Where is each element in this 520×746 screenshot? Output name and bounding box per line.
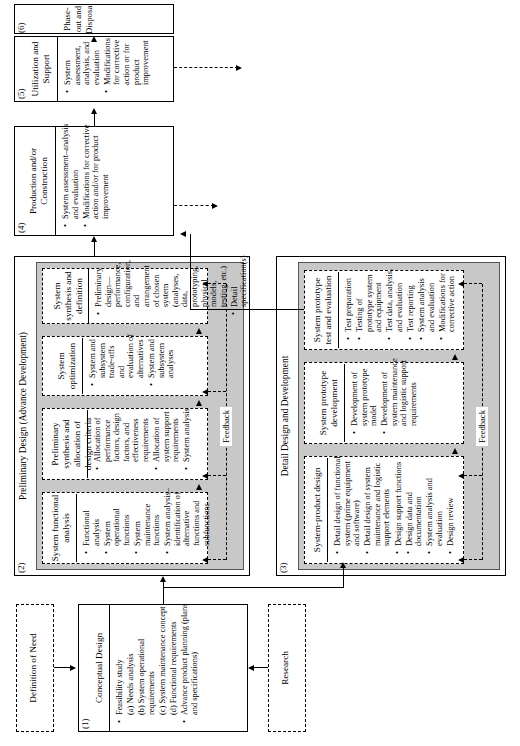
phase-2-feedback-label: Feedback [220,407,232,446]
phase-5-rule [57,36,58,102]
connector-phase3-to-phase4-h [190,234,191,310]
list-item: Design review [446,452,456,546]
arrow-phase2-to-phase3 [340,562,346,568]
arrow-phase3-b2-to-b3 [452,354,458,360]
phase-1-title: Conceptual Design [94,604,105,732]
list-item: Test data, analysis, and evaluation [385,266,404,332]
arrow-phase5-to-phase6 [91,36,97,42]
phase-3-feedback-label: Feedback [476,407,488,446]
phase-4-number: (4) [16,223,26,234]
phase-2-block-3-rule [82,338,83,394]
arrow-phase2-feedback-4 [202,281,208,287]
arrow-phase3-b1-to-b2 [452,448,458,454]
phase-5-title: Utilization and Support [30,36,52,102]
arrow-phase4-to-phase5 [91,108,97,114]
phase-1-item-list: Feasibility study (a) Needs analysis (b)… [115,603,201,724]
phase-2-block-2-items: Allocation of performance factors, desig… [93,404,193,471]
list-item: (b) System operational requirements [137,603,156,715]
phase-2-block-3-items: System and subsystem trade-offs and eval… [88,332,177,387]
list-item: System operational functions [103,488,132,546]
list-item: Feasibility study [115,603,125,715]
connector-phase3-to-phase4 [190,309,304,310]
feedback-phase4-to-phase3 [174,205,214,206]
connector-phase4-to-phase5 [94,112,95,126]
diagram-rotation-wrapper: Definition of Need (1) Conceptual Design… [0,0,520,746]
phase-3-block-2-items: Development of system prototype model De… [350,358,420,435]
arrow-need-to-conceptual [70,665,76,671]
phase-2-block-1-title: System functional analysis [50,494,72,562]
phase-5-items: System assessment, analysis, and evaluat… [63,33,152,94]
list-item: System analysis [182,404,192,462]
arrow-phase2-feedback-3 [202,389,208,395]
list-item: System analysis–identification of altern… [163,488,211,546]
phase-2-block-1-items: Functional analysis System operational f… [82,488,213,555]
list-item: System analysis and evaluation [417,266,436,332]
phase-3-block-2-title: System prototype development [318,364,340,442]
connector-conceptual-to-preliminary [163,580,164,604]
list-item: Design data and documentation [405,452,424,546]
phase-2-feedback-stub-3 [208,391,226,392]
phase-1-number: (1) [80,719,90,730]
phase-3-block-1-items: Detail design of functional system (prim… [333,452,457,555]
phase-4-items: System assessment–analysis and evaluatio… [61,123,112,228]
phase-3-feedback-stub-1 [464,559,482,560]
list-item: Testing of prototype system and equipmen… [355,266,384,332]
research-label: Research [280,604,291,732]
phase-3-feedback-stub-2 [464,475,482,476]
phase-2-block-1-rule [76,494,77,562]
arrow-phase2-feedback-1 [202,557,208,563]
list-item: (d) Functional requirements [169,603,179,715]
arrow-feedback-phase5-down [236,65,242,71]
list-item: Modifications for corrective action or f… [103,33,151,85]
list-item: (c) System maintenance concept [158,603,168,715]
list-item: Test preparation [344,266,354,332]
list-item: Detail design of functional system (prim… [333,452,362,546]
phase-2-block-4-rule [88,269,89,323]
list-item: System maintenance functions [133,488,162,546]
phase-3-block-2-rule [344,364,345,442]
list-item: Development of system maintenance and lo… [380,358,418,426]
phase-2-feedback-stub-1 [208,559,226,560]
arrow-phase3-feedback-1 [458,557,464,563]
list-item: Test reporting [406,266,416,332]
list-item: Detail specification(s) [230,263,249,307]
arrow-phase2-to-phase4 [91,236,97,242]
arrow-research-to-conceptual [248,665,254,671]
diagram-canvas: Definition of Need (1) Conceptual Design… [0,0,520,746]
phase-4-title: Production and/or Construction [28,126,50,236]
phase-2-feedback-stub-2 [208,475,226,476]
arrow-phase2-b2-to-b3 [196,400,202,406]
phase-3-block-3-title: System prototype test and evaluation [312,272,334,348]
arrow-phase2-b1-to-b2 [196,484,202,490]
phase-1-title-rule [109,604,110,732]
list-item: Preliminary design—performance, configur… [94,263,228,307]
phase-5-number: (5) [16,89,26,100]
list-item: Modifications for corrective action and/… [82,123,111,219]
definition-of-need-label: Definition of Need [28,604,39,732]
phase-3-block-1-rule [327,458,328,562]
list-item: Detail design of system maintenance and … [363,452,392,546]
phase-6-title: Phase-out and Disposal [62,4,95,34]
phase-2-block-3-title: System optimization [56,338,78,394]
connector-phase2-to-phase3-vert [163,587,343,588]
phase-3-block-3-items: Test preparation Testing of prototype sy… [344,266,459,341]
arrow-phase3-to-phase4 [180,231,186,237]
arrow-phase2-feedback-2 [202,473,208,479]
list-item: System and subsystem trade-offs and eval… [88,332,146,378]
phase-6-number: (6) [16,23,26,34]
list-item: Design support functions [394,452,404,546]
feedback-phase5-down [174,67,238,68]
arrow-phase3-feedback-3 [458,281,464,287]
list-item: Functional analysis [82,488,101,546]
connector-phase2-to-phase4 [94,240,95,256]
arrow-conceptual-to-preliminary [160,576,166,582]
phase-2-feedback-stub-4 [208,283,226,284]
phase-2-block-2-rule [87,410,88,478]
list-item: (a) Needs analysis [126,603,136,715]
list-item: System analysis and evaluation [425,452,444,546]
list-item: Development of system prototype model [350,358,379,426]
phase-4-rule [55,126,56,236]
phase-3-block-1-title: System-product design [312,458,323,562]
phase-2-header: Preliminary Design (Advance Development) [18,256,29,576]
list-item: Allocation of performance factors, desig… [93,404,151,462]
